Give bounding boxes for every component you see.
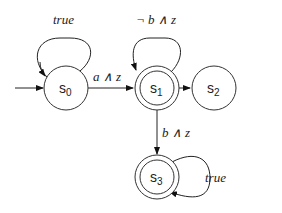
s0-loop-label: true bbox=[53, 12, 74, 27]
state-s1: s1 bbox=[135, 66, 179, 110]
state-s2: s2 bbox=[192, 66, 236, 110]
edge-s1-s3-label: b ∧ z bbox=[162, 125, 190, 140]
state-s0: s0 bbox=[44, 66, 88, 110]
edge-s0-s1-label: a ∧ z bbox=[93, 69, 121, 84]
s1-loop-label: ¬ b ∧ z bbox=[136, 12, 176, 27]
s3-loop-label: true bbox=[205, 170, 226, 185]
automaton-diagram: true a ∧ z ¬ b ∧ z c b ∧ z true s0 s1 s2… bbox=[0, 0, 282, 213]
state-s3: s3 bbox=[135, 155, 179, 199]
